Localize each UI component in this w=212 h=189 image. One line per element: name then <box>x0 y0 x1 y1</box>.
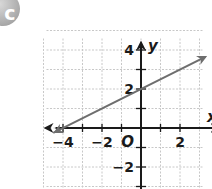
y-axis-label: y <box>148 37 159 55</box>
plotted-line <box>53 57 205 133</box>
x-tick-label: −2 <box>91 134 112 150</box>
x-tick-label: 2 <box>175 134 185 150</box>
coordinate-plane: −4−2242−2Oxy <box>0 0 212 189</box>
y-tick-label: −2 <box>113 159 134 175</box>
tick-labels: −4−2242−2Oxy <box>52 37 212 176</box>
line-graph <box>53 57 205 133</box>
y-tick-label: 4 <box>124 42 134 58</box>
x-axis-label: x <box>206 108 212 126</box>
origin-label: O <box>121 133 134 151</box>
x-tick-label: −4 <box>52 134 74 150</box>
